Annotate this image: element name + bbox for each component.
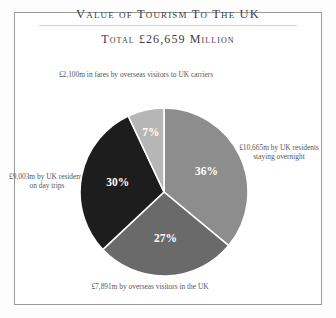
annotation-overseas-in-uk: £7,891m by overseas visitors in the UK (46, 282, 254, 291)
page-title: Value of Tourism To The UK (0, 6, 336, 22)
annotation-fares: £2,100m in fares by overseas visitors to… (54, 70, 218, 79)
title-block: Value of Tourism To The UK Total £26,659… (0, 6, 336, 47)
pie-slice-label: 27% (154, 232, 177, 244)
pie-chart: 36%27%30%7% (79, 107, 249, 277)
pie-chart-svg: 36%27%30%7% (79, 107, 249, 277)
pie-slice-group (80, 108, 248, 276)
chart-subtitle: Total £26,659 Million (0, 32, 336, 47)
pie-slice-label: 30% (106, 176, 129, 188)
pie-slice-label: 36% (195, 165, 218, 177)
title-divider (39, 25, 297, 26)
chart-page: Value of Tourism To The UK Total £26,659… (0, 0, 336, 318)
annotation-day-trips: £9,003m by UK residents on day trips (8, 172, 86, 191)
pie-slice-label: 7% (142, 126, 159, 138)
